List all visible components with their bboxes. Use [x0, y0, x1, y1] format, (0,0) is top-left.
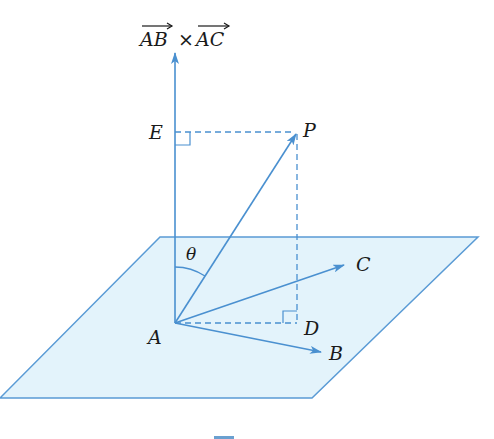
label-cross: ×	[178, 28, 194, 50]
label-D: D	[303, 317, 319, 339]
label-normal-AB: AB	[138, 28, 168, 50]
diagram-canvas: AB × AC E P θ C A D B	[0, 0, 494, 439]
label-C: C	[356, 253, 371, 275]
label-A: A	[146, 326, 162, 348]
label-theta: θ	[186, 244, 196, 264]
label-P: P	[302, 119, 317, 141]
plane	[0, 237, 478, 398]
right-angle-marker-E	[175, 132, 190, 145]
label-normal-AC: AC	[194, 28, 225, 50]
label-E: E	[148, 121, 163, 143]
label-B: B	[328, 342, 343, 364]
